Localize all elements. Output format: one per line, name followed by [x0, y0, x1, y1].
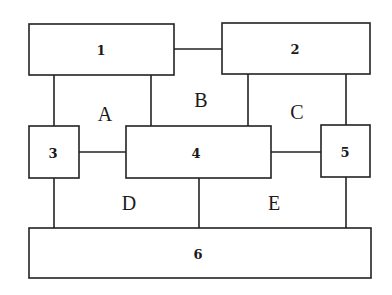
- block-diagram: 1 2 3 4 5 6 A B C D E: [0, 0, 392, 295]
- region-d-label: D: [122, 192, 136, 214]
- box-4-label: 4: [191, 146, 200, 161]
- box-6-label: 6: [193, 247, 202, 262]
- box-2-label: 2: [290, 42, 299, 57]
- region-e-label: E: [268, 192, 280, 214]
- box-3-label: 3: [48, 146, 57, 161]
- region-b-label: B: [194, 89, 207, 111]
- region-c-label: C: [290, 101, 303, 123]
- box-1-label: 1: [96, 43, 105, 58]
- box-5-label: 5: [340, 145, 349, 160]
- region-a-label: A: [98, 103, 113, 125]
